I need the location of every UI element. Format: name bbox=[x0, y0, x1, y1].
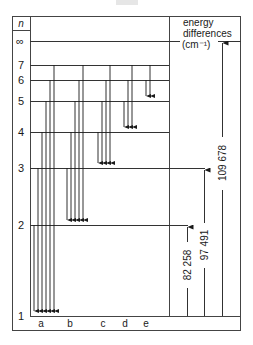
series-label-e: e bbox=[143, 318, 149, 329]
series-b-arrows bbox=[67, 65, 83, 220]
energy-diff-109678: 109 678 bbox=[217, 144, 228, 181]
series-label-b: b bbox=[67, 318, 73, 329]
level-label-6: 6 bbox=[18, 74, 24, 86]
series-label-c: c bbox=[101, 318, 106, 329]
level-label-2: 2 bbox=[18, 219, 24, 231]
level-label-5: 5 bbox=[18, 95, 24, 107]
series-c-arrows bbox=[98, 65, 110, 163]
level-lines bbox=[30, 42, 241, 226]
energy-diff-97491: 97 491 bbox=[199, 229, 210, 260]
level-label-3: 3 bbox=[18, 162, 24, 174]
energy-title-line2: differences bbox=[183, 28, 232, 39]
level-label-7: 7 bbox=[18, 59, 24, 71]
level-label-infinity: ∞ bbox=[16, 35, 24, 47]
energy-diff-82258: 82 258 bbox=[182, 249, 193, 280]
energy-title-line1: energy bbox=[183, 17, 214, 28]
n-header: n bbox=[18, 18, 24, 29]
series-label-d: d bbox=[122, 318, 128, 329]
energy-level-diagram: n ∞ 7 6 5 4 3 2 1 a b c d e energy diffe… bbox=[0, 0, 253, 345]
level-label-4: 4 bbox=[18, 126, 24, 138]
level-label-1: 1 bbox=[18, 310, 24, 322]
energy-title-line3: (cm⁻¹) bbox=[182, 39, 210, 50]
series-label-a: a bbox=[38, 318, 44, 329]
outer-frame bbox=[13, 17, 241, 331]
series-d-arrows bbox=[124, 65, 132, 127]
